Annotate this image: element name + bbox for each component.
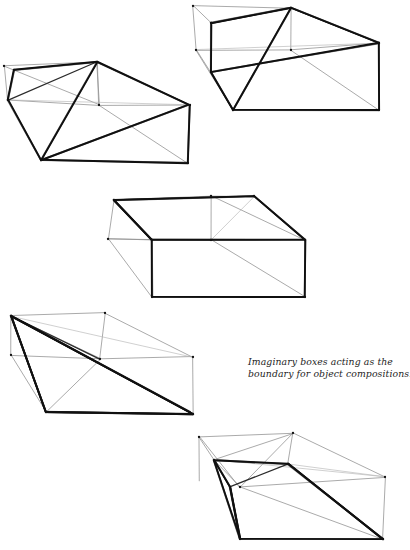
- sketch-stroke: [97, 62, 98, 105]
- sketch-stroke: [114, 196, 305, 297]
- sketch-stroke: [199, 437, 214, 460]
- vertex-dots: [3, 61, 191, 164]
- vertex-dot: [253, 195, 255, 197]
- vertex-dot: [187, 162, 189, 164]
- vertex-dot: [210, 239, 212, 241]
- edges-heavy: [114, 196, 306, 297]
- vertex-dot: [10, 354, 12, 356]
- vertex-dot: [232, 109, 234, 111]
- construction-lines-light: [199, 433, 385, 540]
- vertex-dot: [290, 7, 292, 9]
- vertex-dot: [98, 104, 100, 106]
- vertex-dot: [229, 486, 231, 488]
- vertex-dot: [3, 65, 5, 67]
- sketch-page: Imaginary boxes acting as the boundary f…: [0, 0, 410, 550]
- vertex-dot: [13, 69, 15, 71]
- vertex-dot: [384, 476, 386, 478]
- vertex-dot: [10, 315, 12, 317]
- sketch-stroke: [193, 6, 291, 9]
- sketch-stroke: [291, 50, 379, 110]
- sketch-stroke: [211, 196, 254, 239]
- sketch-stroke: [46, 412, 193, 415]
- caption-text: Imaginary boxes acting as the boundary f…: [248, 356, 408, 381]
- sketch-stroke: [46, 359, 100, 412]
- caption-line-2: boundary for object compositions.: [248, 368, 408, 380]
- vertex-dot: [195, 49, 197, 51]
- edges-heavy: [214, 460, 383, 540]
- vertex-dot: [192, 356, 194, 358]
- figure-box-upper-left: [3, 61, 191, 164]
- vertex-dots: [107, 195, 306, 298]
- sketch-stroke: [211, 8, 379, 111]
- vertex-dot: [198, 436, 200, 438]
- figure-box-lower-right: [198, 432, 386, 540]
- construction-lines-light: [108, 196, 305, 297]
- vertex-dot: [104, 312, 106, 314]
- vertex-dot: [287, 463, 289, 465]
- vertex-dot: [40, 159, 42, 161]
- vertex-dot: [189, 104, 191, 106]
- sketch-stroke: [105, 313, 193, 357]
- vertex-dot: [151, 296, 153, 298]
- edges-heavy: [11, 316, 194, 415]
- sketch-stroke: [211, 196, 305, 240]
- construction-lines-faint: [11, 316, 194, 357]
- figure-box-middle: [107, 195, 306, 298]
- figure-box-lower-left: [10, 312, 194, 415]
- sketch-stroke: [41, 62, 97, 160]
- sketch-stroke: [11, 316, 190, 412]
- sketch-stroke: [108, 200, 114, 239]
- vertex-dot: [292, 432, 294, 434]
- vertex-dot: [192, 413, 194, 415]
- vertex-dot: [304, 239, 306, 241]
- vertex-dot: [45, 411, 47, 413]
- sketch-stroke: [8, 62, 97, 101]
- figure-box-upper-right: [192, 5, 380, 111]
- sketch-stroke: [8, 62, 190, 163]
- vertex-dot: [99, 358, 101, 360]
- sketch-stroke: [211, 43, 380, 72]
- vertex-dot: [210, 195, 212, 197]
- vertex-dot: [239, 486, 241, 488]
- sketch-stroke: [383, 477, 386, 539]
- vertex-dot: [96, 61, 98, 63]
- vertex-dot: [304, 296, 306, 298]
- sketch-stroke: [108, 239, 151, 297]
- sketch-stroke: [11, 316, 194, 357]
- sketch-stroke: [100, 357, 194, 359]
- edges-medium: [114, 196, 305, 241]
- sketch-stroke: [196, 50, 210, 72]
- sketch-stroke: [211, 8, 379, 110]
- vertex-dot: [239, 538, 241, 540]
- vertex-dot: [382, 538, 384, 540]
- vertex-dot: [378, 42, 380, 44]
- sketch-stroke: [211, 240, 305, 297]
- sketch-stroke: [11, 313, 105, 316]
- vertex-dot: [151, 239, 153, 241]
- vertex-dot: [213, 459, 215, 461]
- vertex-dot: [7, 99, 9, 101]
- vertex-dot: [210, 71, 212, 73]
- sketch-stroke: [99, 105, 188, 163]
- vertex-dot: [113, 199, 115, 201]
- vertex-dot: [107, 238, 109, 240]
- sketch-stroke: [4, 66, 7, 100]
- vertex-dots: [198, 432, 386, 540]
- construction-lines-faint: [211, 196, 255, 240]
- sketch-stroke: [193, 6, 196, 50]
- sketch-stroke: [230, 464, 289, 487]
- edges-heavy: [211, 8, 380, 111]
- vertex-dot: [378, 109, 380, 111]
- box-sketch-canvas: [0, 0, 410, 550]
- construction-lines-light: [4, 62, 190, 164]
- edges-medium: [211, 8, 379, 110]
- sketch-stroke: [214, 460, 240, 539]
- vertex-dot: [192, 5, 194, 7]
- sketch-stroke: [193, 6, 211, 23]
- sketch-stroke: [199, 433, 293, 437]
- sketch-stroke: [114, 196, 306, 297]
- sketch-stroke: [214, 433, 294, 459]
- sketch-stroke: [193, 357, 194, 414]
- sketch-stroke: [240, 487, 383, 539]
- sketch-stroke: [114, 200, 152, 240]
